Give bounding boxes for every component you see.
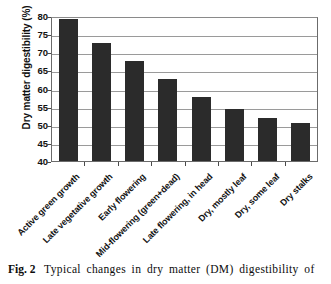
bar-slot	[118, 18, 151, 161]
y-tick-label: 45	[26, 139, 48, 149]
y-tick-label: 55	[26, 103, 48, 113]
y-tick-label: 80	[26, 12, 48, 22]
y-tick-label: 50	[26, 121, 48, 131]
bar-slot	[151, 18, 184, 161]
bar[interactable]	[59, 19, 78, 161]
bar-slot	[85, 18, 118, 161]
x-axis-tick-marks	[51, 162, 318, 167]
bar[interactable]	[158, 79, 177, 161]
bar-slot	[52, 18, 85, 161]
x-tick-mark	[285, 162, 286, 166]
bar-series	[52, 18, 317, 161]
bar-slot	[284, 18, 317, 161]
bar-slot	[251, 18, 284, 161]
x-tick-mark	[84, 162, 85, 166]
y-axis-tick-labels: 404550556065707580	[26, 0, 48, 175]
y-tick-label: 70	[26, 49, 48, 59]
bar[interactable]	[291, 123, 310, 161]
x-tick-mark	[185, 162, 186, 166]
figure-caption-text: Typical changes in dry matter (DM) diges…	[44, 263, 315, 275]
x-tick-mark	[218, 162, 219, 166]
y-tick-label: 40	[26, 157, 48, 167]
bar[interactable]	[225, 109, 244, 161]
y-tick-label: 60	[26, 85, 48, 95]
bar[interactable]	[125, 61, 144, 161]
bar[interactable]	[92, 43, 111, 161]
figure-chart: Dry matter digestibility (%) 40455055606…	[0, 0, 331, 250]
figure-caption-label: Fig. 2	[8, 263, 35, 275]
y-tick-label: 65	[26, 67, 48, 77]
bar[interactable]	[192, 97, 211, 161]
y-tick-label: 75	[26, 30, 48, 40]
bar-slot	[185, 18, 218, 161]
bar-slot	[218, 18, 251, 161]
x-tick-mark	[151, 162, 152, 166]
x-tick-mark	[118, 162, 119, 166]
plot-area	[51, 17, 318, 162]
figure-caption: Fig. 2 Typical changes in dry matter (DM…	[8, 262, 323, 276]
x-tick-mark	[251, 162, 252, 166]
bar[interactable]	[258, 118, 277, 161]
